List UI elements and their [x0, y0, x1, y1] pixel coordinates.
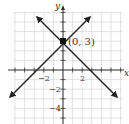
point-label: (0, 3) [68, 36, 95, 47]
intersection-point-marker [60, 38, 66, 44]
grid-lines [14, 12, 122, 124]
coordinate-plane-chart: (0, 3) y x −2 2 −2 −4 [0, 0, 129, 124]
y-tick-label-neg2: −2 [49, 85, 61, 94]
y-axis-arrow-icon [61, 5, 65, 10]
x-tick-label-2: 2 [80, 74, 85, 83]
x-axis-label: x [124, 68, 129, 78]
axis-ticks [15, 12, 121, 118]
y-axis-label: y [54, 1, 61, 11]
x-tick-label-neg2: −2 [38, 74, 50, 83]
y-tick-label-neg4: −4 [49, 104, 61, 113]
